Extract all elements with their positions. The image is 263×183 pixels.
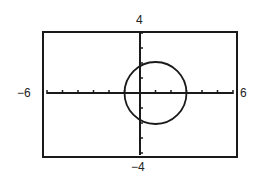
graph-plot xyxy=(0,0,263,183)
axes xyxy=(47,33,233,155)
y-max-label: 4 xyxy=(136,14,143,26)
x-max-label: 6 xyxy=(240,87,247,99)
x-min-label: −6 xyxy=(17,87,31,99)
y-min-label: −4 xyxy=(131,161,145,173)
